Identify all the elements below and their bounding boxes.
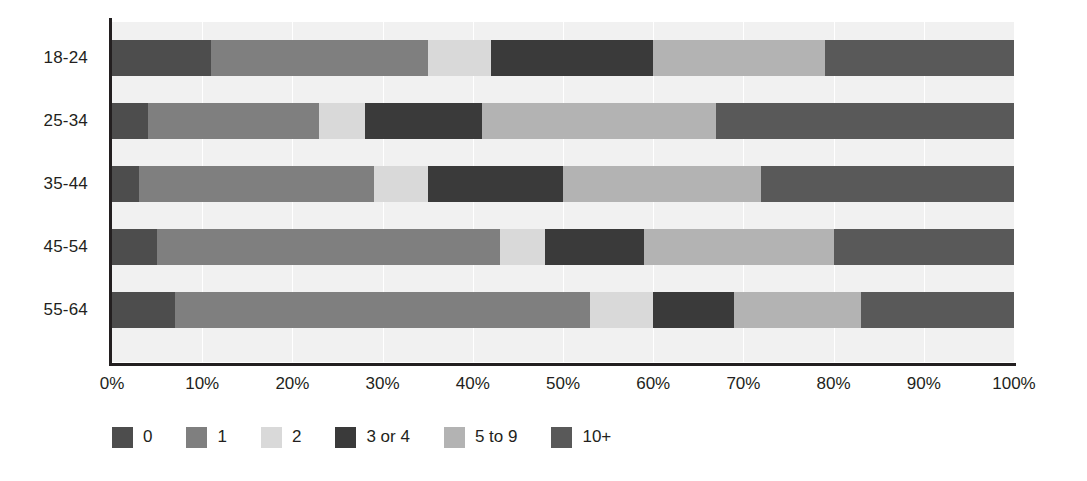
bar-row <box>112 166 1014 202</box>
legend-label: 1 <box>217 427 226 447</box>
legend-label: 10+ <box>582 427 611 447</box>
legend-label: 3 or 4 <box>366 427 409 447</box>
legend-item[interactable]: 10+ <box>551 427 611 448</box>
x-axis-label: 40% <box>456 374 490 394</box>
bar-segment <box>545 229 644 265</box>
stacked-bar-chart: 18-2425-3435-4445-5455-64 0%10%20%30%40%… <box>0 0 1087 481</box>
bar-segment <box>139 166 374 202</box>
bar-segment <box>319 103 364 139</box>
bar-segment <box>834 229 1014 265</box>
y-axis-label: 45-54 <box>0 229 100 265</box>
legend-swatch-icon <box>112 427 133 448</box>
bar-segment <box>653 292 734 328</box>
legend-item[interactable]: 2 <box>261 427 301 448</box>
x-axis-tick-labels: 0%10%20%30%40%50%60%70%80%90%100% <box>112 374 1014 400</box>
bar-segment <box>374 166 428 202</box>
bar-segment <box>428 166 563 202</box>
bar-segment <box>653 40 824 76</box>
x-axis-line <box>109 363 1016 366</box>
bar-segment <box>157 229 500 265</box>
bar-segment <box>563 166 761 202</box>
y-axis-tick-labels: 18-2425-3435-4445-5455-64 <box>0 22 100 362</box>
y-axis-label: 25-34 <box>0 103 100 139</box>
legend-label: 5 to 9 <box>475 427 518 447</box>
x-axis-label: 70% <box>726 374 760 394</box>
bar-segment <box>482 103 717 139</box>
x-axis-label: 90% <box>907 374 941 394</box>
legend-item[interactable]: 1 <box>186 427 226 448</box>
y-axis-label: 35-44 <box>0 166 100 202</box>
legend-item[interactable]: 0 <box>112 427 152 448</box>
chart-legend: 0123 or 45 to 910+ <box>112 424 645 450</box>
bar-segment <box>716 103 1014 139</box>
bar-segment <box>112 229 157 265</box>
gridline-100 <box>1014 22 1015 362</box>
bar-segment <box>761 166 1014 202</box>
legend-label: 0 <box>143 427 152 447</box>
bar-row <box>112 103 1014 139</box>
bar-series-container <box>112 22 1014 362</box>
legend-swatch-icon <box>335 427 356 448</box>
bar-segment <box>112 103 148 139</box>
bar-segment <box>825 40 1014 76</box>
legend-swatch-icon <box>444 427 465 448</box>
legend-item[interactable]: 5 to 9 <box>444 427 518 448</box>
bar-segment <box>734 292 860 328</box>
legend-item[interactable]: 3 or 4 <box>335 427 409 448</box>
x-axis-label: 50% <box>546 374 580 394</box>
x-axis-label: 20% <box>275 374 309 394</box>
bar-segment <box>590 292 653 328</box>
bar-segment <box>112 292 175 328</box>
bar-row <box>112 292 1014 328</box>
bar-segment <box>112 166 139 202</box>
y-axis-line <box>109 18 112 366</box>
legend-swatch-icon <box>551 427 572 448</box>
bar-segment <box>365 103 482 139</box>
bar-segment <box>861 292 1014 328</box>
y-axis-label: 55-64 <box>0 292 100 328</box>
legend-swatch-icon <box>186 427 207 448</box>
bar-segment <box>112 40 211 76</box>
y-axis-label: 18-24 <box>0 40 100 76</box>
bar-segment <box>148 103 319 139</box>
bar-segment <box>491 40 653 76</box>
bar-row <box>112 229 1014 265</box>
bar-segment <box>428 40 491 76</box>
x-axis-label: 0% <box>100 374 125 394</box>
bar-row <box>112 40 1014 76</box>
x-axis-label: 10% <box>185 374 219 394</box>
legend-label: 2 <box>292 427 301 447</box>
x-axis-label: 30% <box>366 374 400 394</box>
legend-swatch-icon <box>261 427 282 448</box>
bar-segment <box>211 40 427 76</box>
x-axis-label: 80% <box>817 374 851 394</box>
x-axis-label: 60% <box>636 374 670 394</box>
bar-segment <box>175 292 590 328</box>
bar-segment <box>644 229 833 265</box>
x-axis-label: 100% <box>992 374 1035 394</box>
bar-segment <box>500 229 545 265</box>
